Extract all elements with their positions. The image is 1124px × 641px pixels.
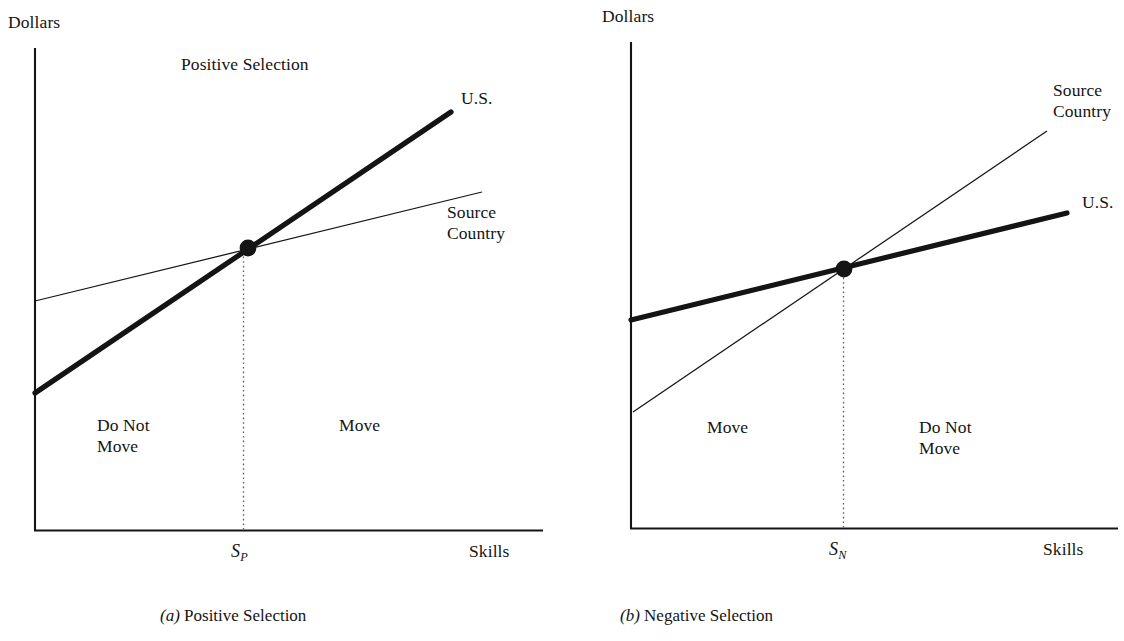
region-label-do-not-move-b-line2: Move [919,438,972,459]
panel-caption-b-text: Negative Selection [640,606,773,625]
region-label-move-a: Move [339,415,380,436]
x-tick-label-sn-base: S [829,539,838,559]
series-label-source-country-a-line1: Source [447,202,505,223]
panel-caption-a-text: Positive Selection [180,606,307,625]
series-label-source-country-a: Source Country [447,202,505,244]
panel-positive-selection: Dollars Positive Selection U.S. Source C… [0,0,562,641]
y-axis-label-a: Dollars [8,12,60,32]
x-tick-label-sp-sub: P [240,550,248,564]
region-label-do-not-move-a-line2: Move [97,436,150,457]
region-label-do-not-move-b: Do Not Move [919,417,972,459]
x-tick-label-sp: SP [231,541,248,563]
y-axis-label-b: Dollars [602,6,654,26]
region-label-do-not-move-b-line1: Do Not [919,417,972,438]
intersection-dot-b [836,261,853,278]
series-label-us-a: U.S. [461,88,493,109]
x-axis-label-b: Skills [1043,539,1083,559]
intersection-dot-a [240,240,257,257]
series-label-source-country-b: Source Country [1053,80,1111,122]
panel-caption-a-mark: (a) [160,606,180,625]
series-label-source-country-a-line2: Country [447,223,505,244]
region-label-do-not-move-a-line1: Do Not [97,415,150,436]
series-label-source-country-b-line2: Country [1053,101,1111,122]
x-axis-label-a: Skills [469,541,509,561]
panel-caption-b: (b) Negative Selection [620,606,773,626]
region-label-move-b: Move [707,417,748,438]
x-tick-label-sn-sub: N [838,548,846,562]
panel-caption-a: (a) Positive Selection [160,606,306,626]
panel-caption-b-mark: (b) [620,606,640,625]
x-tick-label-sp-base: S [231,541,240,561]
source-country-line-a [35,192,482,301]
x-tick-label-sn: SN [829,539,846,561]
panel-negative-selection: Dollars Source Country U.S. Move Do Not … [562,0,1124,641]
panel-title-a: Positive Selection [181,54,309,74]
region-label-do-not-move-a: Do Not Move [97,415,150,457]
selection-figure: Dollars Positive Selection U.S. Source C… [0,0,1124,641]
series-label-us-b: U.S. [1082,192,1114,213]
series-label-source-country-b-line1: Source [1053,80,1111,101]
